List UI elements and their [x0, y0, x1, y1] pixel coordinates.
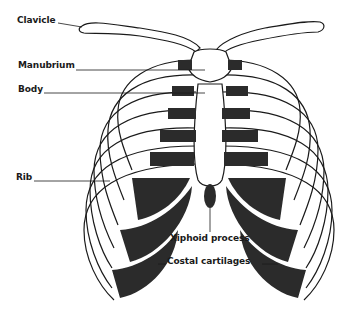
rib-cage-illustration [0, 0, 348, 324]
xiphoid-process [204, 184, 216, 208]
label-clavicle: Clavicle [17, 15, 55, 25]
label-manubrium: Manubrium [18, 60, 75, 70]
right-clavicle [216, 21, 324, 54]
manubrium [188, 49, 232, 82]
label-xiphoid-process: Xiphoid process [170, 233, 249, 243]
label-costal-cartilages: Costal cartilages [167, 256, 250, 266]
sternum-body [194, 84, 226, 186]
thoracic-cage-diagram: Clavicle Manubrium Body Rib Xiphoid proc… [0, 0, 348, 324]
left-clavicle [79, 23, 200, 52]
label-rib: Rib [16, 172, 32, 182]
label-body: Body [18, 84, 43, 94]
